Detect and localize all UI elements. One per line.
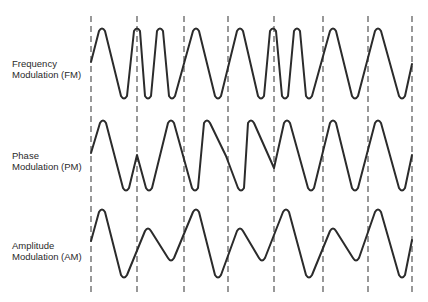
fm-waveform <box>91 29 412 99</box>
bit-boundary-lines <box>91 16 412 293</box>
am-waveform <box>91 210 412 278</box>
pm-waveform <box>91 121 412 191</box>
modulation-diagram <box>0 0 428 302</box>
